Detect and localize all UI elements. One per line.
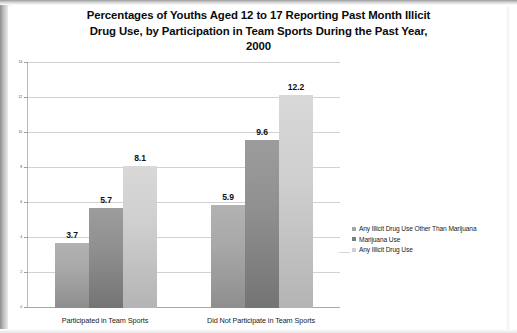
- bar-value-label: 5.9: [222, 192, 234, 202]
- legend-swatch-icon: [352, 248, 356, 252]
- y-axis-tick: [24, 97, 28, 98]
- legend-label: Marijuana Use: [359, 236, 400, 243]
- y-axis-tick-label: 10: [2, 130, 22, 134]
- bar: 8.1: [123, 166, 157, 308]
- scan-artifact-line: [339, 252, 350, 253]
- y-axis-tick-label: 12: [2, 95, 22, 99]
- bar-value-label: 5.7: [100, 195, 112, 205]
- y-axis-tick: [24, 132, 28, 133]
- bar-value-label: 9.6: [256, 127, 268, 137]
- bar: 5.9: [211, 205, 245, 308]
- scanned-page-frame: Percentages of Youths Aged 12 to 17 Repo…: [0, 0, 517, 333]
- legend-item: Marijuana Use: [352, 236, 512, 243]
- legend-swatch-icon: [352, 237, 356, 241]
- page-bottom-shadow: [0, 329, 517, 333]
- bar-chart: 024681012143.75.78.15.99.612.2 Participa…: [0, 56, 517, 333]
- bar-value-label: 8.1: [134, 153, 146, 163]
- chart-title-line-3: 2000: [46, 39, 471, 55]
- y-axis-tick: [24, 272, 28, 273]
- gridline: [28, 62, 340, 63]
- bar-fill: [211, 205, 245, 308]
- y-axis-tick: [24, 202, 28, 203]
- y-axis-tick: [24, 307, 28, 308]
- bar-fill: [245, 140, 279, 308]
- y-axis-tick: [24, 62, 28, 63]
- y-axis-tick-label: 6: [2, 200, 22, 204]
- x-axis-category-label: Participated in Team Sports: [27, 316, 183, 325]
- legend-item: Any Illicit Drug Use Other Than Marijuan…: [352, 225, 512, 232]
- legend-label: Any Illicit Drug Use: [359, 246, 413, 253]
- legend-item: Any Illicit Drug Use: [352, 246, 512, 253]
- y-axis-tick-label: 0: [2, 305, 22, 309]
- y-axis-tick: [24, 237, 28, 238]
- plot-area: 024681012143.75.78.15.99.612.2: [27, 62, 340, 308]
- bar-value-label: 12.2: [288, 82, 304, 92]
- y-axis-tick: [24, 167, 28, 168]
- bar-fill: [55, 243, 89, 308]
- y-axis-tick-label: 14: [2, 60, 22, 64]
- bar-value-label: 3.7: [66, 230, 78, 240]
- bar-fill: [123, 166, 157, 308]
- y-axis-tick-label: 2: [2, 270, 22, 274]
- y-axis-tick-label: 4: [2, 235, 22, 239]
- bar: 9.6: [245, 140, 279, 308]
- bar: 5.7: [89, 208, 123, 308]
- legend-label: Any Illicit Drug Use Other Than Marijuan…: [359, 225, 476, 232]
- bar: 12.2: [279, 95, 313, 309]
- y-axis-tick-label: 8: [2, 165, 22, 169]
- page-top-shadow: [0, 0, 517, 5]
- chart-title-line-2: Drug Use, by Participation in Team Sport…: [46, 24, 471, 40]
- legend-swatch-icon: [352, 227, 356, 231]
- chart-title-line-1: Percentages of Youths Aged 12 to 17 Repo…: [46, 8, 471, 24]
- x-axis-category-label: Did Not Participate in Team Sports: [183, 316, 339, 325]
- bar-fill: [89, 208, 123, 308]
- bar: 3.7: [55, 243, 89, 308]
- bar-fill: [279, 95, 313, 309]
- chart-title: Percentages of Youths Aged 12 to 17 Repo…: [46, 8, 471, 55]
- chart-legend: Any Illicit Drug Use Other Than Marijuan…: [352, 225, 512, 257]
